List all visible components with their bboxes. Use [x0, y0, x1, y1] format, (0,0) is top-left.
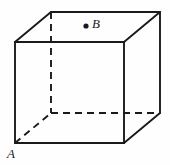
- cube-figure: A B: [0, 0, 170, 165]
- point-B-marker: [83, 23, 88, 28]
- cube-drawing: [0, 0, 170, 165]
- vertex-label-a: A: [7, 147, 15, 160]
- vertex-label-b: B: [92, 17, 100, 30]
